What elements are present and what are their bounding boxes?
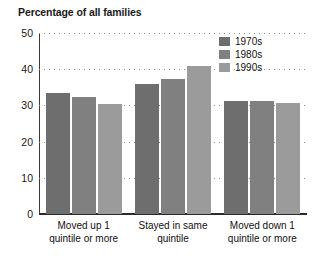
bar-1970s-group-3 [224,101,248,214]
legend-swatch-icon [219,50,230,59]
x-axis-label-line: Moved up 1 [39,219,128,232]
x-axis-group-label: Stayed in samequintile [128,219,217,245]
plot-area: 01020304050 [39,33,307,214]
x-axis-label-line: Moved down 1 [218,219,307,232]
x-axis-label-line: quintile [128,232,217,245]
bar-1990s-group-3 [276,103,300,214]
legend-swatch-icon [219,37,230,46]
y-axis-tick-label: 0 [27,208,33,220]
y-axis-tick-label: 20 [21,136,33,148]
legend-label: 1990s [235,62,262,73]
chart-legend: 1970s1980s1990s [219,36,262,75]
legend-item-1980s: 1980s [219,49,262,60]
legend-item-1990s: 1990s [219,62,262,73]
bar-1980s-group-1 [72,97,96,214]
x-axis-label-line: Stayed in same [128,219,217,232]
legend-item-1970s: 1970s [219,36,262,47]
x-axis-group-label: Moved up 1quintile or more [39,219,128,245]
legend-label: 1970s [235,36,262,47]
bar-1990s-group-1 [98,104,122,214]
x-axis-label-line: quintile or more [39,232,128,245]
bar-1970s-group-2 [135,84,159,214]
chart-title: Percentage of all families [18,6,141,18]
y-axis-tick-label: 40 [21,63,33,75]
bar-1980s-group-2 [161,79,185,214]
y-axis-tick-label: 50 [21,27,33,39]
x-axis-label-line: quintile or more [218,232,307,245]
gridline [39,33,307,34]
y-axis-tick-label: 10 [21,172,33,184]
y-axis-tick-label: 30 [21,99,33,111]
gridline [39,69,307,70]
legend-swatch-icon [219,63,230,72]
bar-1980s-group-3 [250,101,274,214]
bar-chart: Percentage of all families 01020304050 1… [0,0,322,256]
bar-1990s-group-2 [187,66,211,214]
legend-label: 1980s [235,49,262,60]
x-axis-group-label: Moved down 1quintile or more [218,219,307,245]
bar-1970s-group-1 [46,93,70,214]
